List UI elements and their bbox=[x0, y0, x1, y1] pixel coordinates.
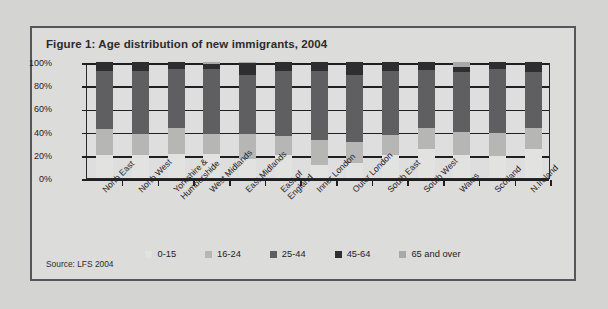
x-tick-mark bbox=[158, 180, 160, 186]
legend-item: 0-15 bbox=[145, 249, 176, 259]
bar-segment bbox=[311, 71, 328, 139]
bar-segment bbox=[203, 134, 220, 154]
bars-group bbox=[87, 64, 549, 178]
bar-segment bbox=[311, 140, 328, 166]
bar-segment bbox=[311, 62, 328, 71]
y-tick-label-20: 20% bbox=[12, 151, 52, 161]
bar-segment bbox=[346, 75, 363, 142]
bar-segment bbox=[525, 149, 542, 178]
legend-swatch-0-15 bbox=[145, 251, 152, 258]
bar-stack bbox=[418, 62, 435, 178]
legend-label: 45-64 bbox=[347, 249, 371, 259]
bar-segment bbox=[525, 72, 542, 128]
x-tick-mark bbox=[550, 180, 552, 186]
y-tick-label-80: 80% bbox=[12, 81, 52, 91]
bar-segment bbox=[489, 133, 506, 156]
bar-segment bbox=[418, 62, 435, 70]
bar-segment bbox=[96, 62, 113, 71]
x-tick-mark bbox=[443, 180, 445, 186]
bar-segment bbox=[96, 129, 113, 155]
bar-segment bbox=[239, 63, 256, 75]
bar-segment bbox=[525, 62, 542, 72]
legend-label: 65 and over bbox=[411, 249, 460, 259]
chart-legend: 0-1516-2425-4445-6465 and over bbox=[32, 249, 574, 259]
x-tick-mark bbox=[122, 180, 124, 186]
bar-segment bbox=[489, 62, 506, 69]
legend-swatch-16-24 bbox=[205, 251, 212, 258]
bar-segment bbox=[525, 128, 542, 149]
bar-segment bbox=[132, 62, 149, 71]
bar-stack bbox=[311, 62, 328, 178]
legend-swatch-65-and-over bbox=[399, 251, 406, 258]
bar-segment bbox=[96, 71, 113, 129]
bar-segment bbox=[418, 128, 435, 149]
bar-segment bbox=[453, 132, 470, 155]
bar-stack bbox=[525, 62, 542, 178]
source-note: Source: LFS 2004 bbox=[46, 259, 114, 269]
legend-item: 45-64 bbox=[335, 249, 371, 259]
bar-segment bbox=[275, 71, 292, 136]
legend-label: 25-44 bbox=[282, 249, 306, 259]
bar-segment bbox=[132, 71, 149, 134]
x-tick-mark bbox=[479, 180, 481, 186]
y-tick-mark-0 bbox=[82, 179, 87, 181]
legend-label: 16-24 bbox=[217, 249, 241, 259]
legend-label: 0-15 bbox=[157, 249, 176, 259]
figure-panel: Figure 1: Age distribution of new immigr… bbox=[30, 26, 576, 281]
y-tick-label-40: 40% bbox=[12, 128, 52, 138]
y-tick-label-60: 60% bbox=[12, 104, 52, 114]
x-tick-mark bbox=[265, 180, 267, 186]
x-tick-mark bbox=[407, 180, 409, 186]
bar-segment bbox=[203, 69, 220, 134]
bar-segment bbox=[168, 69, 185, 128]
bar-segment bbox=[382, 71, 399, 135]
bar-segment bbox=[96, 155, 113, 178]
legend-swatch-45-64 bbox=[335, 251, 342, 258]
legend-item: 16-24 bbox=[205, 249, 241, 259]
bar-segment bbox=[453, 72, 470, 131]
x-tick-mark bbox=[229, 180, 231, 186]
y-tick-label-0: 0% bbox=[12, 174, 52, 184]
x-tick-mark bbox=[336, 180, 338, 186]
bar-segment bbox=[346, 62, 363, 75]
bar-segment bbox=[489, 69, 506, 133]
bar-stack bbox=[132, 62, 149, 178]
legend-swatch-25-44 bbox=[270, 251, 277, 258]
legend-item: 65 and over bbox=[399, 249, 460, 259]
figure-title: Figure 1: Age distribution of new immigr… bbox=[46, 38, 327, 50]
bar-segment bbox=[418, 70, 435, 128]
bar-segment bbox=[132, 134, 149, 155]
bar-segment bbox=[275, 62, 292, 71]
bar-segment bbox=[382, 62, 399, 71]
x-tick-mark bbox=[372, 180, 374, 186]
y-tick-label-100: 100% bbox=[12, 58, 52, 68]
bar-segment bbox=[168, 128, 185, 154]
chart-plot-area bbox=[86, 63, 550, 179]
x-tick-mark bbox=[515, 180, 517, 186]
bar-stack bbox=[489, 62, 506, 178]
legend-item: 25-44 bbox=[270, 249, 306, 259]
bar-segment bbox=[168, 62, 185, 69]
bar-stack bbox=[96, 62, 113, 178]
bar-segment bbox=[239, 75, 256, 134]
